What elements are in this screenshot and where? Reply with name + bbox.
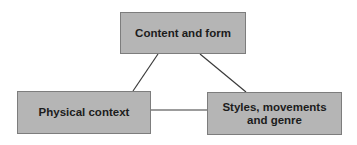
edge-top-left [133,54,158,91]
edge-top-right [200,54,246,92]
node-label: Physical context [39,106,130,119]
node-label: Content and form [135,27,231,40]
node-styles-movements-genre: Styles, movements and genre [207,92,342,135]
node-label: Styles, movements and genre [220,101,330,127]
node-physical-context: Physical context [17,91,151,134]
node-content-and-form: Content and form [120,12,246,54]
